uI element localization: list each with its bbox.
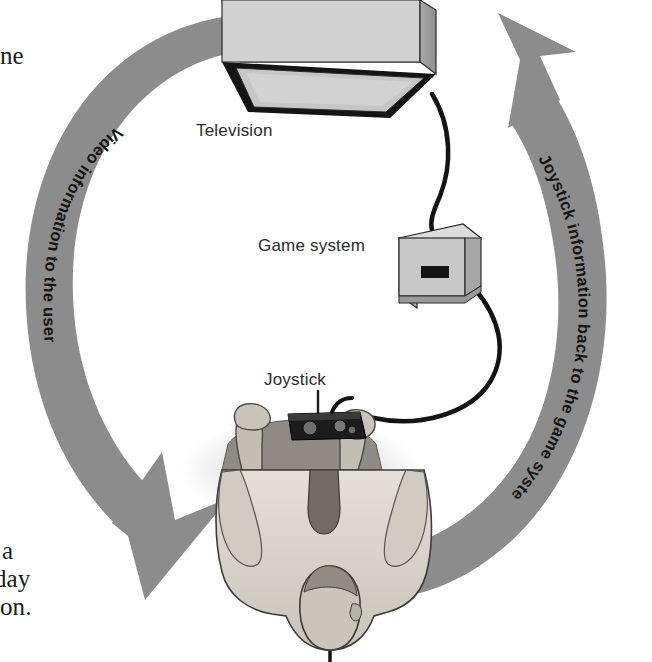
joystick-cable-stub	[332, 398, 352, 412]
joystick-button-b	[348, 426, 356, 434]
person-tie	[308, 470, 340, 534]
cable-console-to-joystick	[332, 288, 500, 421]
arrow-joystick-head	[498, 13, 576, 128]
diagram-canvas: Video information to the user Joystick i…	[0, 0, 652, 662]
label-television: Television	[196, 121, 273, 141]
joystick-dpad	[303, 421, 317, 435]
game-system-device	[399, 224, 481, 308]
person-hand-left	[234, 404, 270, 430]
tv-side-face	[420, 0, 436, 74]
cable-tv-to-console	[431, 94, 448, 230]
label-game-system: Game system	[258, 236, 365, 256]
label-joystick: Joystick	[264, 370, 326, 390]
page-text-fragment-on: on.	[0, 591, 32, 623]
person-ear	[350, 604, 362, 621]
person-figure	[180, 404, 431, 650]
joystick-device	[288, 398, 366, 440]
tv-body-face	[222, 0, 420, 62]
television-device	[222, 0, 436, 118]
page-text-fragment-ne: ne	[0, 40, 24, 72]
figure-root: Video information to the user Joystick i…	[0, 0, 652, 662]
console-cartridge-slot	[421, 266, 449, 278]
joystick-button-a	[334, 420, 346, 432]
